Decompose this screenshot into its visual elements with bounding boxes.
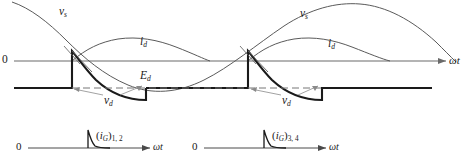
gate-1-signal-label: (iG)1, 2 bbox=[96, 130, 123, 141]
vs-label-right: vs bbox=[300, 8, 308, 20]
ed-sub: d bbox=[147, 74, 151, 83]
gate-2-axis-label: ωt bbox=[329, 142, 339, 152]
main-axis-t: t bbox=[457, 54, 460, 66]
gate-axis-2-arrowhead bbox=[318, 145, 326, 151]
vd-right-sub: d bbox=[287, 99, 291, 108]
gate-2-zero-label: 0 bbox=[192, 141, 198, 152]
gate-axis-1-arrowhead bbox=[142, 145, 150, 151]
gate-1-t: t bbox=[160, 141, 163, 152]
vs-right-sub: s bbox=[305, 12, 308, 21]
waveform-figure bbox=[0, 0, 468, 167]
gate-2-sub-outer: 3, 4 bbox=[288, 135, 299, 143]
id-left-sub: d bbox=[143, 40, 147, 49]
main-axis-arrowhead bbox=[438, 58, 446, 64]
vd-left-sub: d bbox=[109, 99, 113, 108]
gate-1-zero-label: 0 bbox=[16, 141, 22, 152]
vs-label-left: vs bbox=[59, 6, 67, 18]
source-voltage-curve bbox=[12, 2, 456, 91]
id-right-sub: d bbox=[331, 42, 335, 51]
id-label-right: id bbox=[328, 38, 335, 50]
vd-label-right: vd bbox=[282, 95, 291, 107]
gate-1-omega: ω bbox=[153, 141, 160, 152]
main-axis-label: ωt bbox=[449, 55, 460, 66]
id-label-left: id bbox=[140, 36, 147, 48]
vs-left-sub: s bbox=[64, 10, 67, 19]
gate-2-sub-inner: G bbox=[279, 135, 284, 143]
gate-2-omega: ω bbox=[329, 141, 336, 152]
vd-label-left: vd bbox=[104, 95, 113, 107]
ed-base: E bbox=[140, 69, 147, 81]
gate-2-signal-label: (iG)3, 4 bbox=[272, 130, 299, 141]
gate-1-axis-label: ωt bbox=[153, 142, 163, 152]
gate-1-sub-inner: G bbox=[103, 135, 108, 143]
dc-current-curve-right bbox=[248, 38, 390, 61]
gate-1-sub-outer: 1, 2 bbox=[112, 135, 123, 143]
output-voltage-segment-right bbox=[146, 51, 432, 100]
gate-2-t: t bbox=[336, 141, 339, 152]
main-zero-label: 0 bbox=[2, 54, 8, 66]
main-axis-omega: ω bbox=[449, 54, 457, 66]
ed-label: Ed bbox=[140, 70, 151, 82]
